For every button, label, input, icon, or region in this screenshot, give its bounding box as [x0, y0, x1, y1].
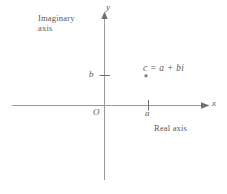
imaginary-axis-label: Imaginary axis [38, 13, 75, 33]
x-axis-symbol-label: x [212, 98, 216, 109]
y-axis-symbol-label: y [106, 2, 110, 13]
imaginary-axis-label-line2: axis [38, 23, 75, 33]
axes-svg [0, 0, 227, 194]
x-axis-arrowhead [201, 102, 210, 108]
point-equation-label: c = a + bi [143, 63, 184, 74]
a-tick-label: a [145, 108, 150, 119]
y-axis-arrowhead [101, 12, 107, 20]
b-tick-label: b [89, 69, 94, 80]
real-axis-label: Real axis [154, 123, 187, 133]
complex-plane-figure: Imaginary axis Real axis y x b a O c = a… [0, 0, 227, 194]
imaginary-axis-label-line1: Imaginary [38, 13, 75, 23]
point-marker-c [145, 74, 148, 77]
origin-label: O [93, 107, 100, 118]
